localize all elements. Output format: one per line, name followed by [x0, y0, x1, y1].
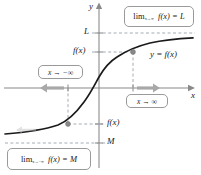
direction-arrows: [16, 84, 160, 134]
x-axis-label: x: [191, 91, 195, 100]
limit-subscript-top: x→∞: [145, 17, 154, 22]
limit-subscript-bottom: x→−∞: [32, 159, 44, 164]
limit-box-x-to-neg-infinity: limx→−∞ f(x) = M: [7, 148, 91, 170]
right-direction-arrow: [137, 84, 160, 93]
upper-point-marker: [131, 50, 136, 55]
callout-left-text: x → −∞: [48, 68, 73, 77]
limit-expression-bottom: f(x) = M: [48, 154, 77, 164]
y-axis-label: y: [89, 2, 93, 11]
limits-at-infinity-figure: y x L f(x) f(x) M y = f(x) limx→∞ f(x) =…: [0, 0, 201, 175]
callout-x-to-infinity: x → ∞: [126, 94, 168, 108]
curve-label: y = f(x): [150, 50, 177, 59]
limit-box-x-to-infinity: limx→∞ f(x) = L: [124, 6, 194, 27]
left-direction-arrow: [40, 84, 64, 93]
limit-expression-top: f(x) = L: [158, 11, 185, 21]
tick-label-fx-upper: f(x): [73, 46, 86, 55]
limit-operator-bottom: lim: [21, 154, 32, 164]
limit-operator-top: lim: [133, 11, 144, 21]
callout-right-text: x → ∞: [137, 97, 157, 106]
tick-label-L: L: [84, 27, 89, 36]
lower-point-marker: [66, 122, 71, 127]
y-axis-arrowhead: [96, 3, 102, 10]
tick-label-M: M: [107, 137, 115, 146]
callout-x-to-neg-infinity: x → −∞: [38, 65, 83, 79]
tick-label-fx-lower: f(x): [107, 118, 120, 127]
